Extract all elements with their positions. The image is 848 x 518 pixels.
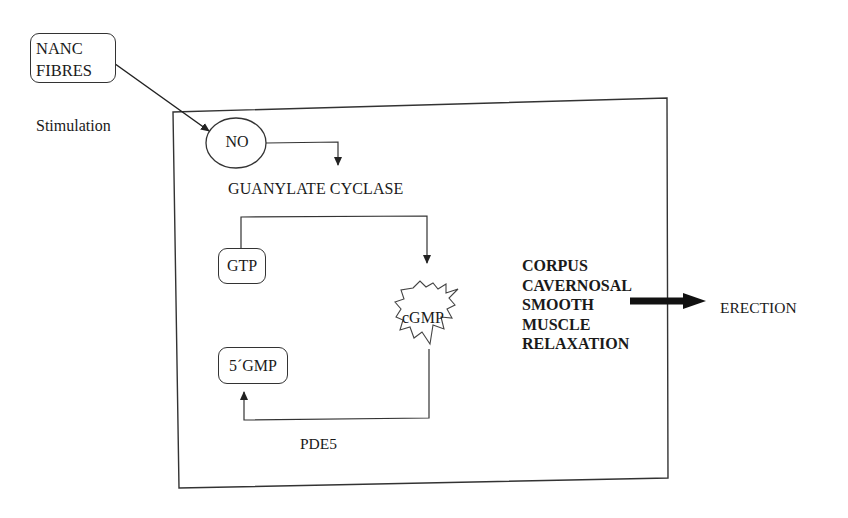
relaxation-line-3: SMOOTH <box>522 295 632 315</box>
arrow-no-to-gc <box>266 142 338 165</box>
gtp-label: GTP <box>227 257 257 275</box>
relaxation-line-1: CORPUS <box>522 256 632 276</box>
nanc-line1: NANC <box>36 38 115 60</box>
gtp-node: GTP <box>218 248 266 284</box>
smooth-muscle-relaxation-label: CORPUS CAVERNOSAL SMOOTH MUSCLE RELAXATI… <box>522 256 632 354</box>
relaxation-line-4: MUSCLE <box>522 315 632 335</box>
5gmp-node: 5´GMP <box>218 347 288 384</box>
diagram-wires <box>0 0 848 518</box>
nanc-fibres-node: NANC FIBRES <box>30 33 116 83</box>
stimulation-label: Stimulation <box>36 118 111 134</box>
5gmp-label: 5´GMP <box>229 357 277 375</box>
arrow-gtp-to-cgmp <box>241 216 427 263</box>
nanc-line2: FIBRES <box>36 60 115 82</box>
arrow-nanc-to-no <box>111 61 209 131</box>
pde5-label: PDE5 <box>300 436 337 452</box>
guanylate-cyclase-label: GUANYLATE CYCLASE <box>228 181 403 197</box>
relaxation-line-5: RELAXATION <box>522 334 632 354</box>
erection-label: ERECTION <box>720 300 797 316</box>
cgmp-node-label: cGMP <box>402 310 444 326</box>
arrow-head-erection <box>683 293 706 309</box>
no-node-label: NO <box>222 134 252 150</box>
relaxation-line-2: CAVERNOSAL <box>522 276 632 296</box>
